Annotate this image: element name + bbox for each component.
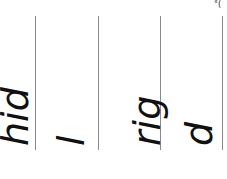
vertical-text: hid <box>0 87 34 146</box>
vertical-text: d <box>180 122 218 146</box>
vertical-text: l <box>52 135 90 146</box>
rule-line <box>98 16 99 150</box>
vertical-text: rig <box>128 96 166 146</box>
corner-fragment: °( <box>214 0 221 9</box>
rule-line <box>222 16 223 150</box>
